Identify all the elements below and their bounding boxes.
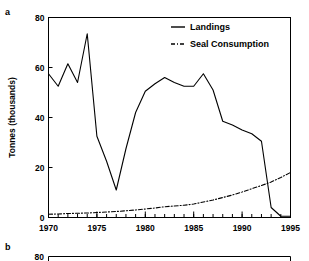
panel-b-svg: 80 — [0, 235, 309, 261]
chart-panel-b-partial: 80 — [0, 235, 309, 261]
legend-label-landings: Landings — [190, 22, 230, 32]
x-tick-label: 1985 — [184, 223, 203, 233]
y-tick-label: 80 — [35, 13, 45, 23]
chart-legend: Landings Seal Consumption — [171, 22, 269, 49]
y-tick-label: 40 — [35, 113, 45, 123]
x-tick-label: 1990 — [233, 223, 252, 233]
x-axis-ticks — [49, 212, 291, 218]
y-tick-label: 60 — [35, 63, 45, 73]
series-line-landings — [49, 34, 291, 217]
x-tick-label: 1995 — [281, 223, 300, 233]
figure-container: a 020406080 197019751980198519901995 Ton… — [0, 0, 309, 261]
series-line-seal-consumption — [49, 173, 291, 215]
y-axis-title: Tonnes (thousands) — [7, 77, 17, 158]
y-axis-tick-labels: 020406080 — [35, 13, 45, 223]
panel-b-top-tick-label: 80 — [35, 252, 45, 261]
chart-panel-a: 020406080 197019751980198519901995 Tonne… — [0, 0, 309, 235]
line-chart-svg: 020406080 197019751980198519901995 Tonne… — [0, 0, 309, 235]
x-tick-label: 1975 — [87, 223, 106, 233]
legend-label-seal-consumption: Seal Consumption — [190, 39, 269, 49]
x-tick-label: 1980 — [136, 223, 155, 233]
x-axis-tick-labels: 197019751980198519901995 — [39, 223, 300, 233]
y-tick-label: 0 — [40, 213, 45, 223]
x-axis-minor-ticks — [49, 214, 291, 218]
y-tick-label: 20 — [35, 163, 45, 173]
x-tick-label: 1970 — [39, 223, 58, 233]
y-axis-ticks — [49, 18, 53, 218]
